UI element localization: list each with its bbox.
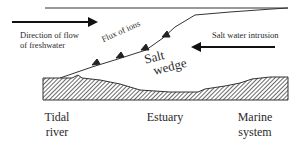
- freshwater-flow-line1: Direction of flow: [20, 30, 79, 40]
- zone-tidal-river: Tidal river: [40, 110, 74, 140]
- freshwater-flow-label: Direction of flow of freshwater: [20, 30, 79, 50]
- salt-intrusion-label: Salt water intrusion: [212, 30, 279, 40]
- zone-marine-system: Marine system: [232, 110, 278, 140]
- tidal-river-line1: Tidal: [40, 110, 74, 125]
- freshwater-arrow: [12, 17, 98, 27]
- zone-estuary: Estuary: [140, 110, 190, 125]
- marine-system-line1: Marine: [232, 110, 278, 125]
- tidal-river-line2: river: [40, 125, 74, 140]
- freshwater-flow-line2: of freshwater: [20, 40, 79, 50]
- marine-system-line2: system: [232, 125, 278, 140]
- saltwater-arrow: [191, 42, 275, 52]
- estuary-bed: [43, 75, 288, 100]
